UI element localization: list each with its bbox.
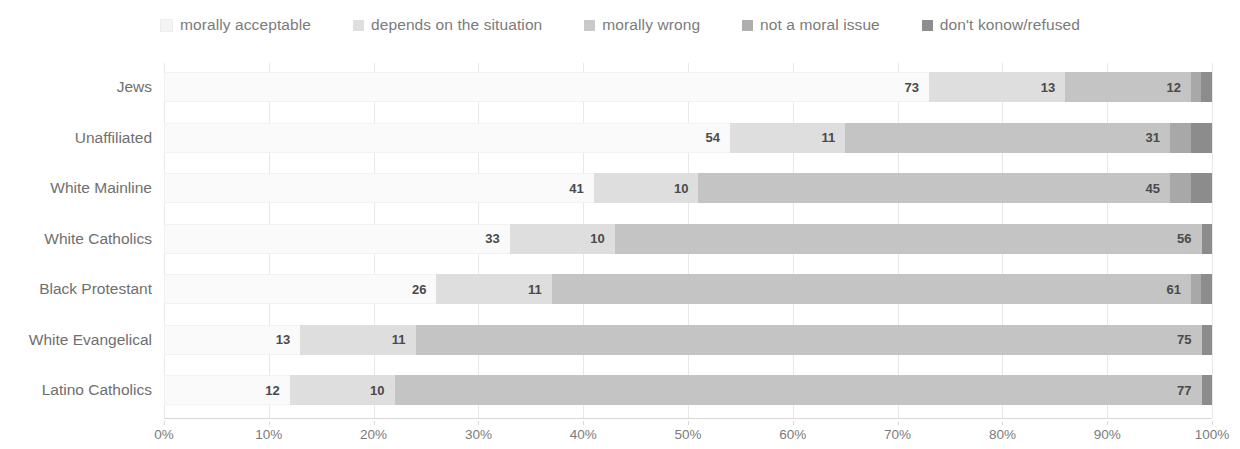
bar-row: 261161 <box>164 274 1212 304</box>
legend-swatch-icon <box>922 20 933 31</box>
value-axis: 0%10%20%30%40%50%60%70%80%90%100% <box>164 421 1212 445</box>
bar-segment[interactable]: 13 <box>164 325 300 355</box>
legend-label: not a moral issue <box>760 16 880 34</box>
bar-segment[interactable]: 54 <box>164 123 730 153</box>
axis-tick-label: 30% <box>465 427 492 442</box>
bar-segment[interactable]: 77 <box>395 375 1202 405</box>
axis-tick <box>583 421 584 425</box>
legend-swatch-icon <box>160 19 173 32</box>
bar-segment-value-label: 12 <box>265 384 289 397</box>
legend-entry[interactable]: depends on the situation <box>353 16 542 34</box>
gridline <box>1212 63 1213 418</box>
bar-segment[interactable] <box>1202 325 1212 355</box>
bar-segment[interactable] <box>1170 173 1191 203</box>
legend-label: don't konow/refused <box>940 16 1080 34</box>
axis-tick <box>374 421 375 425</box>
category-label: White Mainline <box>0 173 152 203</box>
axis-tick <box>898 421 899 425</box>
bar-segment[interactable] <box>1202 224 1212 254</box>
axis-tick <box>688 421 689 425</box>
bar-segment-value-label: 11 <box>821 131 845 144</box>
bar-segment-value-label: 75 <box>1177 333 1201 346</box>
bar-segment-value-label: 11 <box>528 283 552 296</box>
axis-tick-label: 60% <box>779 427 806 442</box>
bar-segment-value-label: 13 <box>1041 81 1065 94</box>
bar-row: 411045 <box>164 173 1212 203</box>
bar-segment-value-label: 11 <box>392 333 416 346</box>
legend-entry[interactable]: don't konow/refused <box>922 16 1080 34</box>
bar-segment-value-label: 12 <box>1167 81 1191 94</box>
legend-label: morally acceptable <box>180 16 311 34</box>
bar-segment[interactable]: 12 <box>164 375 290 405</box>
legend-label: depends on the situation <box>371 16 542 34</box>
bar-row: 331056 <box>164 224 1212 254</box>
axis-tick-label: 10% <box>255 427 282 442</box>
bar-row: 131175 <box>164 325 1212 355</box>
bar-segment[interactable] <box>1191 274 1201 304</box>
bar-segment[interactable]: 11 <box>730 123 845 153</box>
plot-area: 7313125411314110453310562611611311751210… <box>164 63 1212 418</box>
bar-segment-value-label: 10 <box>674 182 698 195</box>
legend-label: morally wrong <box>602 16 700 34</box>
bar-rows: 7313125411314110453310562611611311751210… <box>164 63 1212 418</box>
category-label: Unaffiliated <box>0 123 152 153</box>
bar-segment[interactable]: 13 <box>929 72 1065 102</box>
category-label: Jews <box>0 72 152 102</box>
bar-segment[interactable]: 12 <box>1065 72 1191 102</box>
legend-swatch-icon <box>742 20 753 31</box>
category-label: Black Protestant <box>0 274 152 304</box>
bar-segment[interactable]: 26 <box>164 274 436 304</box>
axis-tick-label: 20% <box>360 427 387 442</box>
axis-tick <box>1002 421 1003 425</box>
value-axis-line <box>164 418 1212 419</box>
category-label: White Catholics <box>0 224 152 254</box>
axis-tick-label: 50% <box>674 427 701 442</box>
legend-entry[interactable]: morally acceptable <box>160 16 311 34</box>
bar-segment[interactable]: 73 <box>164 72 929 102</box>
axis-tick-label: 80% <box>989 427 1016 442</box>
bar-segment[interactable]: 56 <box>615 224 1202 254</box>
category-label: Latino Catholics <box>0 375 152 405</box>
legend-swatch-icon <box>353 20 364 31</box>
bar-segment-value-label: 26 <box>412 283 436 296</box>
bar-segment-value-label: 41 <box>569 182 593 195</box>
bar-segment[interactable] <box>1191 123 1212 153</box>
legend-swatch-icon <box>584 20 595 31</box>
bar-segment-value-label: 73 <box>905 81 929 94</box>
axis-tick <box>164 421 165 425</box>
bar-segment[interactable] <box>1202 375 1212 405</box>
bar-segment[interactable] <box>1170 123 1191 153</box>
bar-segment[interactable] <box>1191 173 1212 203</box>
bar-segment-value-label: 13 <box>276 333 300 346</box>
bar-segment[interactable] <box>1201 72 1211 102</box>
axis-tick-label: 70% <box>884 427 911 442</box>
bar-row: 541131 <box>164 123 1212 153</box>
bar-segment-value-label: 31 <box>1146 131 1170 144</box>
legend-entry[interactable]: not a moral issue <box>742 16 880 34</box>
category-axis-labels: JewsUnaffiliatedWhite MainlineWhite Cath… <box>0 63 152 418</box>
axis-tick-label: 90% <box>1094 427 1121 442</box>
bar-segment[interactable]: 61 <box>552 274 1191 304</box>
bar-segment[interactable] <box>1201 274 1211 304</box>
bar-segment-value-label: 10 <box>370 384 394 397</box>
axis-tick-label: 40% <box>570 427 597 442</box>
legend-entry[interactable]: morally wrong <box>584 16 700 34</box>
chart-legend: morally acceptabledepends on the situati… <box>0 10 1240 40</box>
bar-segment[interactable]: 10 <box>290 375 395 405</box>
bar-segment[interactable]: 33 <box>164 224 510 254</box>
axis-tick <box>478 421 479 425</box>
bar-segment[interactable]: 10 <box>594 173 699 203</box>
bar-segment[interactable]: 41 <box>164 173 594 203</box>
bar-segment-value-label: 77 <box>1177 384 1201 397</box>
bar-segment-value-label: 56 <box>1177 232 1201 245</box>
bar-segment[interactable] <box>1191 72 1201 102</box>
axis-tick-label: 100% <box>1195 427 1230 442</box>
axis-tick <box>793 421 794 425</box>
axis-tick-label: 0% <box>154 427 174 442</box>
bar-segment[interactable]: 11 <box>436 274 551 304</box>
bar-segment[interactable]: 75 <box>416 325 1202 355</box>
bar-segment[interactable]: 31 <box>845 123 1170 153</box>
bar-segment[interactable]: 45 <box>698 173 1170 203</box>
bar-segment[interactable]: 10 <box>510 224 615 254</box>
bar-segment[interactable]: 11 <box>300 325 415 355</box>
